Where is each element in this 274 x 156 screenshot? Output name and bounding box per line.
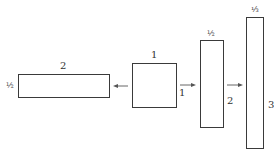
arrows-layer <box>0 0 274 156</box>
arrow-right-icon <box>227 83 243 87</box>
arrow-left-icon <box>113 84 128 88</box>
arrow-right-icon <box>180 83 196 87</box>
